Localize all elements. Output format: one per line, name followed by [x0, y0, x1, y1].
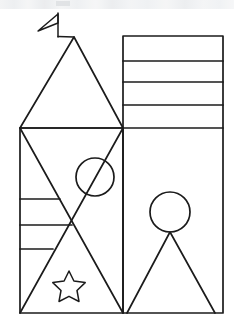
left-house-group: [20, 13, 123, 313]
roof-triangle-left: [20, 37, 123, 128]
line-art-illustration: [0, 0, 234, 324]
flag-stem-to-apex-line: [58, 37, 74, 38]
flag-pennant-icon: [38, 14, 58, 31]
circle-right-building: [150, 192, 190, 232]
triangle-right-lower: [127, 232, 215, 313]
star-five-point-icon: [53, 271, 85, 302]
drawing-canvas: Two adjoining buildings outlined in blac…: [0, 0, 234, 324]
right-building-group: [123, 36, 223, 313]
right-building-body-rect: [123, 36, 223, 313]
